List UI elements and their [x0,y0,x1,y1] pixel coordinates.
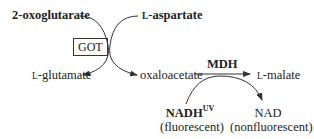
oxoglutarate-label: 2-oxoglutarate [12,9,90,22]
nadh-uv-superscript: UV [203,104,215,113]
oxaloacetate-label: oxaloacetate [140,69,202,82]
aspartate-to-oxaloacetate-arrow [110,16,138,75]
got-enzyme-box: GOT [73,38,108,56]
glutamate-label: L-glutamate [32,69,91,82]
mdh-enzyme-label: MDH [207,58,238,71]
nad-label: NAD [230,107,306,120]
nadh-label: NADH [166,106,203,120]
malate-label: L-malate [257,69,300,82]
nadh-note: (fluorescent) [160,121,220,134]
nadh-cofactor: NADHUV (fluorescent) [160,107,220,133]
aspartate-label: L-aspartate [142,9,203,22]
nad-note: (nonfluorescent) [230,121,306,134]
aspartate-name: -aspartate [148,8,202,22]
glutamate-name: -glutamate [38,68,91,82]
malate-name: -malate [263,68,300,82]
nad-cofactor: NAD (nonfluorescent) [230,107,306,133]
